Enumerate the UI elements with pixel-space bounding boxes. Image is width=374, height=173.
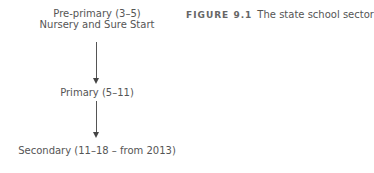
node-secondary-label: Secondary (11–18 – from 2013) <box>0 145 194 156</box>
figure-caption: FIGURE 9.1The state school sector <box>186 9 374 20</box>
arrow-down-icon <box>96 101 97 134</box>
figure-title: The state school sector <box>257 9 374 20</box>
node-pre-primary-line2: Nursery and Sure Start <box>0 19 194 30</box>
node-pre-primary-line1: Pre-primary (3–5) <box>0 8 194 19</box>
node-pre-primary: Pre-primary (3–5) Nursery and Sure Start <box>0 8 194 30</box>
node-primary: Primary (5–11) <box>0 87 194 98</box>
node-primary-label: Primary (5–11) <box>0 87 194 98</box>
node-secondary: Secondary (11–18 – from 2013) <box>0 145 194 156</box>
arrow-down-icon <box>96 42 97 80</box>
figure-label: FIGURE 9.1 <box>186 10 252 20</box>
